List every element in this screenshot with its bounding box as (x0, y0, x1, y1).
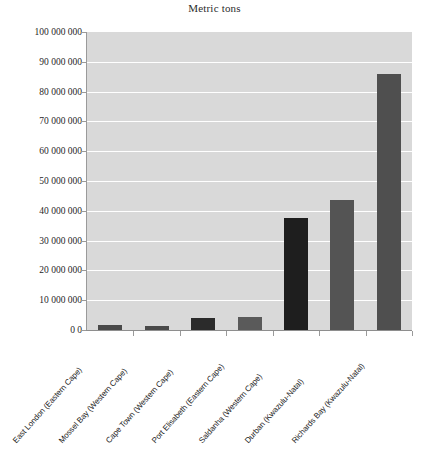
bar-chart: Metric tons 100 000 00090 000 00080 000 … (0, 0, 429, 469)
x-axis-tick-label: Richards Bay (Kwazulu-Natal) (290, 362, 366, 445)
x-axis-labels: East London (Eastern Cape)Mossel Bay (We… (0, 0, 429, 469)
